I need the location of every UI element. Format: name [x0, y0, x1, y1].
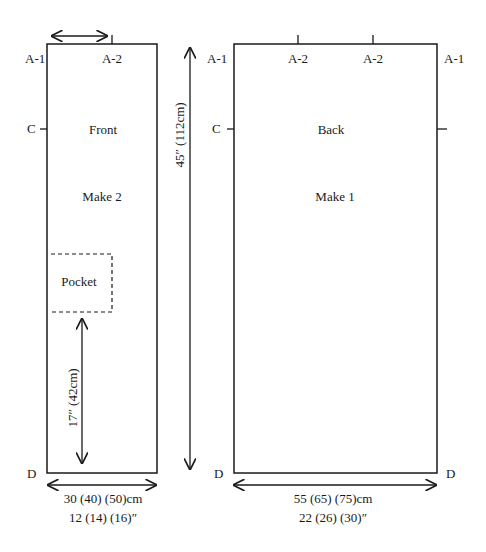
back-title: Back — [318, 123, 345, 137]
pocket-height-label: 17″ (42cm) — [66, 368, 80, 427]
front-label-d: D — [27, 467, 36, 481]
back-instruction: Make 1 — [315, 190, 354, 204]
back-label-a1-right: A-1 — [444, 52, 464, 66]
back-piece-outline — [227, 35, 447, 473]
back-width-cm: 55 (65) (75)cm — [294, 492, 373, 506]
front-label-a2: A-2 — [102, 52, 122, 66]
front-title: Front — [89, 123, 117, 137]
front-label-a1: A-1 — [25, 52, 45, 66]
back-label-a2-left: A-2 — [288, 52, 308, 66]
front-piece-outline — [40, 35, 157, 473]
back-label-a2-right: A-2 — [363, 52, 383, 66]
front-instruction: Make 2 — [82, 190, 121, 204]
length-label: 45″ (112cm) — [173, 102, 187, 167]
front-width-cm: 30 (40) (50)cm — [64, 492, 143, 506]
front-width-in: 12 (14) (16)″ — [69, 511, 137, 525]
back-label-d-left: D — [214, 467, 223, 481]
back-width-in: 22 (26) (30)″ — [299, 511, 367, 525]
back-label-c: C — [212, 122, 221, 136]
back-label-a1-left: A-1 — [207, 52, 227, 66]
pocket-label: Pocket — [61, 275, 96, 289]
front-label-c: C — [27, 122, 36, 136]
back-label-d-right: D — [446, 467, 455, 481]
